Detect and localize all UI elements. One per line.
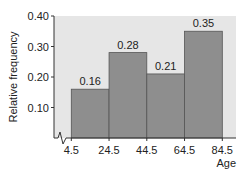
y-axis-title: Relative frequency xyxy=(7,31,19,123)
histogram-bar xyxy=(109,53,147,138)
histogram-bar xyxy=(71,89,109,138)
y-tick-label: 0.30 xyxy=(28,41,49,53)
histogram-chart: 0.160.280.210.35 0.100.200.300.40 4.524.… xyxy=(0,0,245,180)
histogram-bar xyxy=(147,74,185,138)
y-tick-label: 0.40 xyxy=(28,10,49,22)
x-tick-label: 24.5 xyxy=(98,144,119,156)
x-tick-label: 84.5 xyxy=(212,144,233,156)
bar-value-label: 0.16 xyxy=(79,75,100,87)
bar-value-label: 0.28 xyxy=(117,39,138,51)
y-tick-label: 0.20 xyxy=(28,71,49,83)
y-tick-label: 0.10 xyxy=(28,102,49,114)
x-tick-label: 64.5 xyxy=(174,144,195,156)
x-tick-label: 44.5 xyxy=(136,144,157,156)
x-axis-title: Age xyxy=(216,157,236,169)
x-tick-label: 4.5 xyxy=(64,144,79,156)
bar-value-label: 0.35 xyxy=(193,17,214,29)
histogram-bar xyxy=(185,31,223,138)
bar-value-label: 0.21 xyxy=(155,60,176,72)
